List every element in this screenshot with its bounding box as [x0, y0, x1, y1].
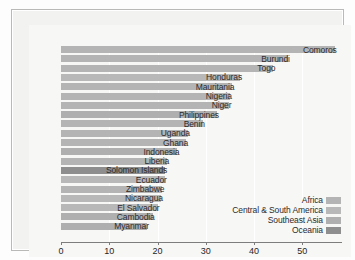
bar-label: Nigeria — [29, 92, 232, 101]
x-tick — [158, 242, 159, 245]
x-tick — [109, 242, 110, 245]
legend-item: Central & South America — [215, 206, 341, 215]
bar-label: Nicaragua — [29, 194, 163, 203]
legend-item: Africa — [215, 196, 341, 205]
x-tick-label: 10 — [97, 246, 121, 257]
legend-swatch — [326, 197, 341, 204]
legend-label: Oceania — [292, 226, 323, 235]
chart-panel: Percent forest lost, 1990–2005 AfricaCen… — [29, 25, 351, 257]
x-tick — [61, 242, 62, 245]
x-tick-label: 20 — [146, 246, 170, 257]
x-tick — [302, 242, 303, 245]
x-tick-label: 50 — [290, 246, 314, 257]
x-tick-label: 30 — [194, 246, 218, 257]
legend-swatch — [326, 227, 341, 234]
x-tick-label: 40 — [242, 246, 266, 257]
legend-label: Africa — [302, 196, 323, 205]
bar-label: Niger — [29, 101, 231, 110]
x-tick-label: 0 — [49, 246, 73, 257]
chart-frame: Percent forest lost, 1990–2005 AfricaCen… — [11, 9, 344, 251]
bar-label: Myanmar — [29, 222, 149, 231]
legend-swatch — [326, 207, 341, 214]
legend-label: Southeast Asia — [268, 216, 323, 225]
legend-item: Oceania — [215, 226, 341, 235]
legend-swatch — [326, 217, 341, 224]
legend-item: Southeast Asia — [215, 216, 341, 225]
chart-figure: Percent forest lost, 1990–2005 AfricaCen… — [0, 0, 355, 260]
x-tick — [206, 242, 207, 245]
legend-label: Central & South America — [232, 206, 323, 215]
chart-legend: AfricaCentral & South AmericaSoutheast A… — [215, 196, 341, 236]
x-tick — [254, 242, 255, 245]
bar-label: Uganda — [29, 129, 190, 138]
x-axis-line — [61, 242, 342, 243]
bar-label: Comoros — [29, 46, 337, 55]
bar-label: Mauritania — [29, 83, 234, 92]
bar-label: Burundi — [29, 55, 290, 64]
